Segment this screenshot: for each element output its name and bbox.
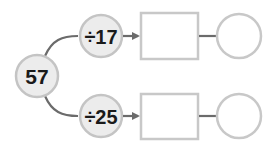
remainder-circle-bottom[interactable]	[217, 94, 261, 138]
start-node: 57	[16, 55, 58, 97]
operation-label-bottom: ÷25	[84, 106, 117, 128]
operation-label-top: ÷17	[84, 26, 117, 48]
remainder-circle-top[interactable]	[217, 14, 261, 58]
start-value: 57	[25, 65, 48, 88]
connector-bottom	[45, 96, 78, 116]
result-box-bottom[interactable]	[141, 94, 198, 139]
result-box-top[interactable]	[141, 13, 198, 59]
operation-node-top: ÷17	[80, 15, 122, 57]
division-diagram: 57 ÷17 ÷25	[0, 0, 277, 150]
operation-node-bottom: ÷25	[80, 95, 122, 137]
connector-top	[45, 36, 78, 56]
